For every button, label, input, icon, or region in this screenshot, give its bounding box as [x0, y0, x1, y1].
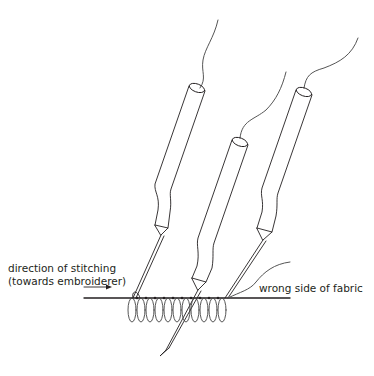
direction-label-line2: (towards embroiderer)	[8, 275, 126, 288]
tambour-hook-right	[225, 38, 358, 298]
direction-label-line1: direction of stitching	[8, 262, 126, 275]
fabric-label: wrong side of fabric	[259, 282, 363, 295]
direction-label: direction of stitching (towards embroide…	[8, 262, 126, 288]
thread-loops	[128, 297, 226, 322]
tambour-hook-left	[133, 20, 218, 298]
tambour-diagram	[0, 0, 374, 376]
